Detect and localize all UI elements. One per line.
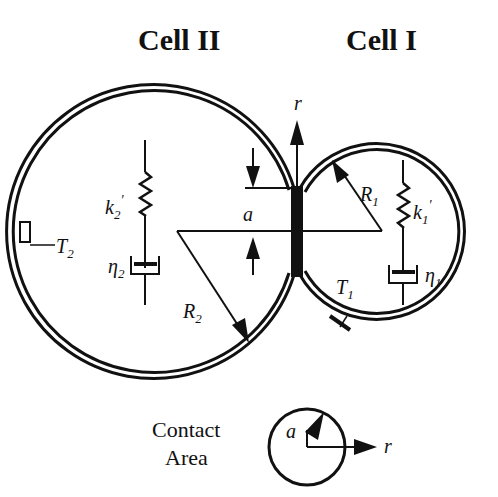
a-dimension-label: a	[243, 203, 253, 225]
cell-2-spring-dashpot	[131, 140, 159, 305]
eta1-label: η1	[425, 264, 441, 290]
contact-area-label-line2: Area	[165, 445, 208, 470]
r-axis-label: r	[294, 92, 302, 114]
eta2-label: η2	[108, 255, 125, 281]
r1-label: R1	[359, 183, 379, 209]
t2-tension-marker	[20, 222, 55, 245]
cell-2-title: Cell II	[138, 23, 221, 56]
r2-radius-arrow	[177, 231, 249, 343]
cell-1-spring-dashpot	[389, 160, 417, 305]
cell-1-title: Cell I	[346, 23, 417, 56]
contact-area-label-line1: Contact	[152, 417, 220, 442]
r2-label: R2	[182, 300, 202, 326]
k1-label: k1'	[413, 198, 432, 227]
t2-label: T2	[56, 235, 74, 261]
contact-area-r-label: r	[384, 435, 392, 457]
cell-contact-diagram: Cell II Cell I r a R2 R1	[0, 0, 498, 497]
t1-tension-marker	[330, 316, 350, 330]
t1-label: T1	[336, 276, 354, 302]
contact-area-a-label: a	[286, 420, 296, 442]
r-axis-arrow	[290, 120, 304, 188]
k2-label: k2'	[105, 193, 124, 222]
